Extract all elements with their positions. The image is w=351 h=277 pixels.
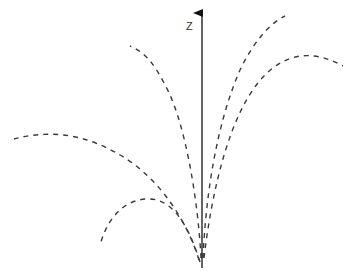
cropped-caption bbox=[18, 270, 318, 277]
z-axis-label: Z bbox=[186, 20, 193, 32]
trajectory-left-low-arc bbox=[101, 199, 200, 262]
trajectory-right-steep bbox=[203, 16, 285, 258]
trajectory-left-steep bbox=[130, 46, 201, 258]
trajectory-right-wide-arc bbox=[204, 56, 343, 258]
trajectory-diagram: Z bbox=[0, 0, 351, 277]
trajectory-left-wide-arc bbox=[14, 134, 199, 260]
